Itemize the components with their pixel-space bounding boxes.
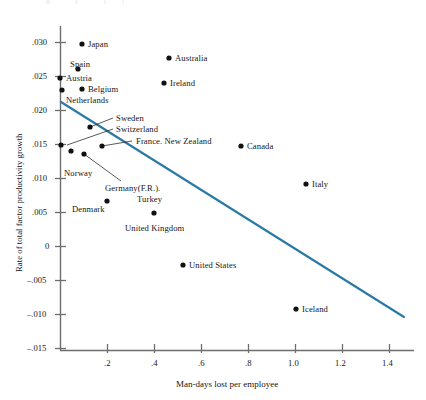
- y-tick-label-5: .005: [32, 208, 47, 217]
- y-tick-label-1: .025: [32, 72, 47, 81]
- point-germany: [81, 151, 86, 156]
- point-label-turkey: Turkey: [137, 195, 162, 204]
- x-axis-label: Man-days lost per employee: [176, 379, 278, 389]
- point-label-ireland: Ireland: [170, 79, 195, 88]
- x-tick-label-5: 1.2: [335, 359, 346, 368]
- point-ireland: [161, 80, 166, 85]
- point-norway: [68, 148, 73, 153]
- point-label-canada: Canada: [247, 142, 273, 151]
- point-netherlands: [59, 87, 64, 92]
- point-united-states: [180, 262, 185, 267]
- point-label-austria: Austria: [66, 74, 92, 83]
- plot-canvas: [0, 0, 426, 400]
- point-france-nz: [99, 143, 104, 148]
- x-tick-label-4: 1.0: [288, 359, 299, 368]
- point-label-denmark: Denmark: [72, 205, 105, 214]
- y-tick-label-8: –.010: [27, 310, 46, 319]
- point-switzerland: [58, 142, 63, 147]
- point-label-netherlands: Netherlands: [66, 96, 109, 105]
- point-label-sweden: Sweden: [116, 114, 144, 123]
- point-iceland: [293, 306, 298, 311]
- point-turkey-uk: [151, 210, 156, 215]
- y-axis-label: Rate of total factor productivity growth: [14, 133, 24, 272]
- point-label-belgium: Belgium: [88, 85, 118, 94]
- y-tick-label-7: –.005: [27, 276, 46, 285]
- point-label-norway: Norway: [64, 169, 92, 178]
- point-denmark: [104, 198, 109, 203]
- y-tick-label-4: .010: [32, 174, 47, 183]
- point-label-iceland: Iceland: [302, 305, 328, 314]
- point-label-japan: Japan: [88, 40, 108, 49]
- x-tick-label-6: 1.4: [382, 359, 393, 368]
- trendline: [61, 102, 404, 317]
- y-tick-label-3: .015: [32, 140, 47, 149]
- point-label-united-states: United States: [189, 261, 236, 270]
- point-label-germany: Germany(F.R.).: [105, 184, 160, 193]
- x-tick-label-2: .6: [198, 359, 204, 368]
- point-label-spain: Spain: [70, 60, 90, 69]
- point-austria: [57, 75, 62, 80]
- point-label-italy: Italy: [312, 180, 328, 189]
- point-label-united-kingdom: United Kingdom: [125, 224, 184, 233]
- point-japan: [79, 41, 84, 46]
- y-tick-label-0: .030: [32, 38, 47, 47]
- point-label-switzerland: Switzerland: [116, 125, 158, 134]
- x-tick-label-1: .4: [151, 359, 157, 368]
- point-label-france-nz: France. New Zealand: [136, 137, 212, 146]
- point-sweden: [87, 124, 92, 129]
- y-tick-label-2: .020: [32, 106, 47, 115]
- x-tick-label-3: .8: [245, 359, 251, 368]
- point-italy: [303, 181, 308, 186]
- point-canada: [238, 143, 243, 148]
- point-belgium: [79, 86, 84, 91]
- x-tick-label-0: .2: [104, 359, 110, 368]
- scatter-plot-figure: .030 .025 .020 .015 .010 .005 0 –.005 –.…: [0, 0, 426, 400]
- point-australia: [166, 55, 171, 60]
- point-label-australia: Australia: [175, 54, 207, 63]
- y-tick-label-6: 0: [45, 242, 49, 251]
- x-tick-marks: [108, 344, 390, 353]
- y-tick-label-9: –.015: [27, 344, 46, 353]
